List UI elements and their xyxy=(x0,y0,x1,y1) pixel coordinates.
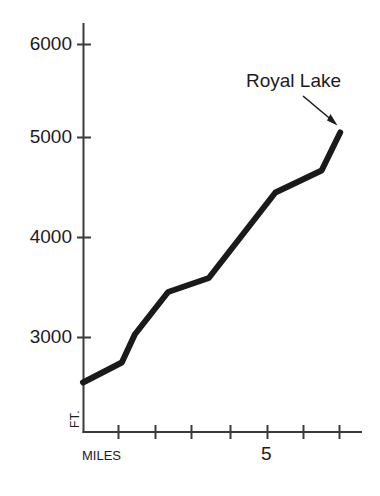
y-tick-label-4000: 4000 xyxy=(10,226,72,248)
x-axis-title: MILES xyxy=(82,448,121,463)
x-tick-label-5: 5 xyxy=(261,443,272,465)
y-tick-label-6000: 6000 xyxy=(10,33,72,55)
y-axis-title: FT. xyxy=(68,410,82,428)
royal-lake-label: Royal Lake xyxy=(246,70,341,92)
y-tick-label-5000: 5000 xyxy=(10,126,72,148)
elevation-profile-line xyxy=(83,133,340,383)
callout-arrow-icon xyxy=(303,96,338,126)
elevation-profile-figure: 6000 5000 4000 3000 FT. MILES 5 Royal La… xyxy=(0,0,380,496)
y-tick-label-3000: 3000 xyxy=(10,326,72,348)
